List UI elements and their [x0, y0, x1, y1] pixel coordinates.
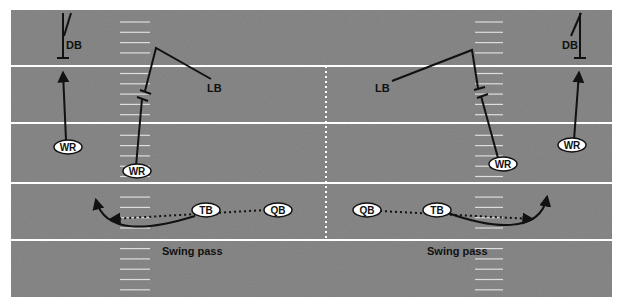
- play-caption-left: Swing pass: [162, 245, 223, 257]
- wr-outside-label-left: WR: [60, 142, 77, 153]
- db-label-left: DB: [66, 39, 82, 51]
- wr-slot-left: WR: [123, 164, 151, 178]
- db-label-right: DB: [562, 39, 578, 51]
- wr-outside-left: WR: [54, 140, 82, 154]
- wr-outside-label-right: WR: [564, 140, 581, 151]
- qb-label-left: QB: [271, 205, 286, 216]
- wr-slot-right: WR: [489, 157, 517, 171]
- lb-label-left: LB: [207, 82, 222, 94]
- qb-label-right: QB: [360, 205, 375, 216]
- qb-left: QB: [264, 203, 292, 217]
- play-diagram: DB LB WR WR TB QB: [0, 0, 623, 308]
- tb-left: TB: [192, 203, 220, 217]
- tb-right: TB: [423, 203, 451, 217]
- tb-label-right: TB: [430, 205, 443, 216]
- wr-slot-label-left: WR: [129, 166, 146, 177]
- wr-slot-label-right: WR: [495, 159, 512, 170]
- lb-label-right: LB: [375, 82, 390, 94]
- field-surface: [11, 10, 612, 297]
- tb-label-left: TB: [199, 205, 212, 216]
- wr-outside-right: WR: [558, 138, 586, 152]
- qb-right: QB: [353, 203, 381, 217]
- play-caption-right: Swing pass: [427, 245, 488, 257]
